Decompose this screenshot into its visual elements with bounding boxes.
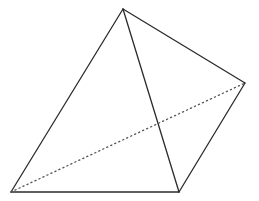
hidden-edges bbox=[11, 83, 245, 192]
edge-bottom_right-right bbox=[179, 83, 245, 192]
visible-edges bbox=[11, 9, 245, 192]
hidden-edge-bottom_left-right bbox=[11, 83, 245, 192]
edge-apex-right bbox=[123, 9, 245, 83]
tetrahedron-diagram bbox=[0, 0, 259, 201]
edge-apex-bottom_left bbox=[11, 9, 123, 192]
edge-apex-bottom_right bbox=[123, 9, 179, 192]
